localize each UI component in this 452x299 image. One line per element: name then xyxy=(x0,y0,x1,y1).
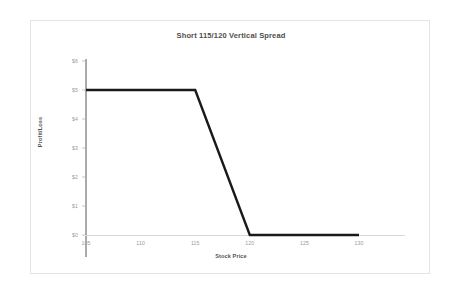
x-axis-title: Stock Price xyxy=(31,253,431,259)
chart-figure: Short 115/120 Vertical Spread $0$1$2$3$4… xyxy=(30,20,430,274)
y-axis-title: Profit/Loss xyxy=(37,102,43,162)
data-series-line xyxy=(31,21,431,275)
